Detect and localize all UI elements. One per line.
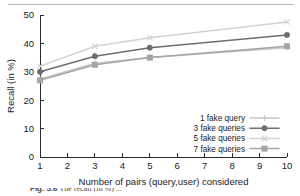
legend-sample-marker bbox=[262, 146, 267, 151]
caption-text: Fig. 5.6 The recall (in %) ... bbox=[30, 188, 122, 193]
data-point bbox=[284, 44, 289, 49]
x-tick-label: 5 bbox=[147, 160, 152, 171]
chart-series bbox=[37, 20, 290, 83]
y-axis-title: Recall (in %) bbox=[5, 59, 16, 113]
x-tick-label: 1 bbox=[37, 160, 42, 171]
y-tick-label: 50 bbox=[23, 9, 34, 20]
data-point bbox=[37, 78, 42, 83]
legend-item: 3 fake queries bbox=[194, 124, 279, 133]
data-point bbox=[92, 54, 97, 59]
x-tick-label: 6 bbox=[175, 160, 180, 171]
caption-label: Fig. 5.6 bbox=[30, 188, 58, 193]
y-tick-label: 30 bbox=[23, 66, 34, 77]
x-tick-label: 2 bbox=[65, 160, 70, 171]
data-point bbox=[92, 62, 97, 67]
legend-label: 3 fake queries bbox=[194, 124, 245, 133]
y-tick-label: 20 bbox=[23, 95, 34, 106]
series-line bbox=[40, 22, 287, 66]
series-7-fake-queries bbox=[37, 44, 289, 83]
data-point bbox=[147, 55, 152, 60]
legend-label: 5 fake queries bbox=[194, 134, 245, 143]
x-tick-label: 4 bbox=[120, 160, 125, 171]
figure-container: 0102030405012345678910 1 fake query3 fak… bbox=[0, 0, 300, 196]
x-tick-label: 3 bbox=[92, 160, 97, 171]
recall-line-chart: 0102030405012345678910 1 fake query3 fak… bbox=[0, 0, 300, 196]
figure-caption: Fig. 5.6 The recall (in %) ... bbox=[0, 188, 300, 196]
x-axis-title: Number of pairs (query,user) considered bbox=[79, 176, 249, 187]
chart-legend: 1 fake query3 fake queries5 fake queries… bbox=[194, 114, 279, 154]
y-tick-label: 0 bbox=[29, 151, 34, 162]
legend-item: 1 fake query bbox=[200, 114, 279, 123]
x-tick-label: 8 bbox=[229, 160, 234, 171]
legend-label: 7 fake queries bbox=[194, 145, 245, 154]
caption-body: The recall (in %) ... bbox=[59, 188, 121, 193]
y-tick-label: 10 bbox=[23, 123, 34, 134]
legend-label: 1 fake query bbox=[200, 114, 246, 123]
data-point bbox=[284, 32, 289, 37]
legend-item: 7 fake queries bbox=[194, 145, 279, 154]
y-tick-label: 40 bbox=[23, 38, 34, 49]
chart-axes: 0102030405012345678910 bbox=[23, 9, 292, 171]
series-line bbox=[40, 46, 287, 80]
data-point bbox=[37, 69, 42, 74]
series-1-fake-query bbox=[37, 44, 290, 82]
legend-sample-marker bbox=[262, 126, 267, 131]
x-tick-label: 10 bbox=[282, 160, 293, 171]
legend-item: 5 fake queries bbox=[194, 134, 279, 143]
data-point bbox=[147, 45, 152, 50]
x-tick-label: 7 bbox=[202, 160, 207, 171]
legend-sample-marker bbox=[261, 115, 267, 121]
x-tick-label: 9 bbox=[257, 160, 262, 171]
